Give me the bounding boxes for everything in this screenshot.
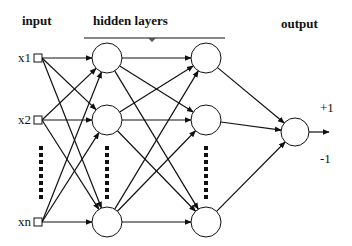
output-minus-one-label: -1 [320, 151, 331, 166]
neural-network-diagram: input hidden layers output x1x2xn +1 -1 [0, 0, 352, 246]
edge-input-to-hidden1 [42, 120, 99, 209]
hidden1-node [92, 105, 122, 135]
input-header: input [22, 13, 52, 28]
output-header: output [281, 16, 319, 31]
edge-input-to-hidden1 [42, 133, 99, 222]
edge-input-to-hidden1 [42, 68, 96, 120]
input-label: x2 [18, 112, 31, 127]
bracket-marker-icon [148, 38, 156, 42]
input-node [34, 218, 42, 226]
hidden2-node [191, 105, 221, 135]
hidden1-node [92, 207, 122, 237]
hidden2-node [191, 43, 221, 73]
input-label: x1 [18, 50, 31, 65]
nodes: x1x2xn [18, 43, 309, 237]
input-node [34, 54, 42, 62]
hidden1-node [92, 43, 122, 73]
hidden-layers-header: hidden layers [93, 13, 168, 28]
output-node [281, 118, 309, 146]
edge-hidden2-to-output [217, 142, 286, 211]
edge-hidden2-to-output [221, 122, 281, 130]
edge-hidden2-to-output [218, 68, 285, 123]
input-node [34, 116, 42, 124]
hidden2-node [191, 207, 221, 237]
input-label: xn [18, 214, 32, 229]
output-plus-one-label: +1 [320, 100, 334, 115]
edge-input-to-hidden1 [42, 58, 96, 110]
